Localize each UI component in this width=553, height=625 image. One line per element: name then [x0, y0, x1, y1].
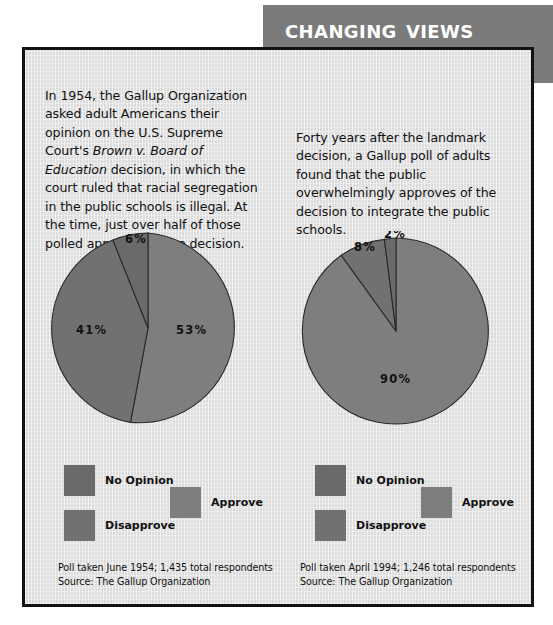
source-org-line-1954: Source: The Gallup Organization — [58, 575, 273, 589]
source-poll-line-1954: Poll taken June 1954; 1,435 total respon… — [58, 561, 273, 575]
legend-item-disapprove-1994: Disapprove — [315, 510, 426, 541]
chart-column-1954: In 1954, the Gallup Organization asked a… — [25, 50, 278, 604]
legend-1954: No Opinion Disapprove Approve — [45, 465, 275, 545]
intro-paragraph-1994: Forty years after the landmark decision,… — [296, 129, 504, 240]
legend-label-no-opinion: No Opinion — [105, 474, 174, 487]
legend-item-approve-1954: Approve — [170, 487, 263, 518]
legend-swatch-no-opinion-icon — [64, 465, 95, 496]
source-note-1994: Poll taken April 1994; 1,246 total respo… — [300, 561, 516, 588]
pie-label-approve-1994: 90% — [380, 372, 411, 386]
legend-item-no-opinion-1994: No Opinion — [315, 465, 425, 496]
pie-label-disapprove-1954: 41% — [76, 323, 107, 337]
page-title-line-1: Changing Views — [285, 14, 553, 45]
legend-item-disapprove-1954: Disapprove — [64, 510, 175, 541]
legend-swatch-disapprove-icon — [315, 510, 346, 541]
infographic-panel: In 1954, the Gallup Organization asked a… — [22, 47, 534, 607]
legend-swatch-approve-icon — [421, 487, 452, 518]
legend-label-disapprove: Disapprove — [105, 519, 175, 532]
legend-swatch-disapprove-icon — [64, 510, 95, 541]
source-poll-line-1994: Poll taken April 1994; 1,246 total respo… — [300, 561, 516, 575]
legend-item-approve-1994: Approve — [421, 487, 514, 518]
legend-label-approve: Approve — [211, 496, 263, 509]
intro-paragraph-1954: In 1954, the Gallup Organization asked a… — [45, 87, 259, 254]
legend-label-disapprove: Disapprove — [356, 519, 426, 532]
pie-label-disapprove-1994: 8% — [354, 240, 376, 254]
legend-label-approve: Approve — [462, 496, 514, 509]
pie-label-no-opinion-1954: 6% — [125, 232, 147, 246]
source-org-line-1994: Source: The Gallup Organization — [300, 575, 516, 589]
pie-label-approve-1954: 53% — [176, 323, 207, 337]
legend-swatch-no-opinion-icon — [315, 465, 346, 496]
chart-column-1994: Forty years after the landmark decision,… — [278, 50, 531, 604]
legend-1994: No Opinion Disapprove Approve — [296, 465, 526, 545]
source-note-1954: Poll taken June 1954; 1,435 total respon… — [58, 561, 273, 588]
pie-chart-1994: 90% 8% 2% — [296, 231, 496, 431]
legend-item-no-opinion-1954: No Opinion — [64, 465, 174, 496]
legend-label-no-opinion: No Opinion — [356, 474, 425, 487]
legend-swatch-approve-icon — [170, 487, 201, 518]
pie-label-no-opinion-1994: 2% — [384, 231, 406, 241]
pie-chart-1954: 53% 41% 6% — [50, 230, 250, 430]
